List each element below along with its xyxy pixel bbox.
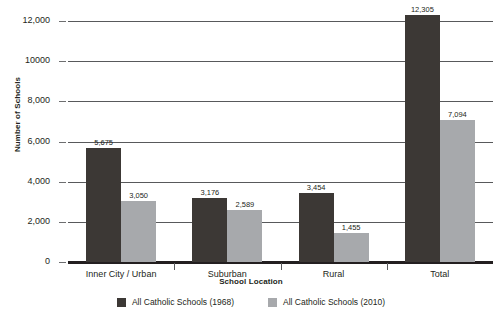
y-axis-tick-label: 8,000 <box>0 95 50 105</box>
bar <box>121 201 156 262</box>
bar-value-label: 3,050 <box>115 191 162 200</box>
legend-item[interactable]: All Catholic Schools (1968) <box>117 297 234 307</box>
bar-value-label: 12,305 <box>399 5 446 14</box>
y-axis-tick-label: 4,000 <box>0 176 50 186</box>
y-axis-tick-label: 0 <box>0 256 50 266</box>
plot-area: 02,0004,0006,0008,0001000012,0005,6753,0… <box>68 21 493 262</box>
y-axis-tick-label: 2,000 <box>0 216 50 226</box>
bar-value-label: 3,454 <box>293 183 340 192</box>
y-axis-title: Number of Schools <box>13 65 22 165</box>
bar <box>334 233 369 262</box>
bar-value-label: 7,094 <box>434 110 481 119</box>
bar-value-label: 1,455 <box>328 223 375 232</box>
x-axis-title: School Location <box>0 277 502 286</box>
legend-swatch-icon <box>117 298 126 307</box>
y-axis-tick <box>59 262 66 263</box>
y-axis-tick <box>59 21 66 22</box>
legend-label: All Catholic Schools (1968) <box>132 297 234 307</box>
y-axis-tick <box>59 61 66 62</box>
y-axis-tick-label: 10000 <box>0 55 50 65</box>
y-axis-tick <box>59 182 66 183</box>
legend-item[interactable]: All Catholic Schools (2010) <box>268 297 385 307</box>
legend-swatch-icon <box>268 298 277 307</box>
bar <box>86 148 121 262</box>
bar <box>227 210 262 262</box>
bar <box>440 120 475 262</box>
bar-value-label: 3,176 <box>186 188 233 197</box>
y-axis-tick <box>59 142 66 143</box>
chart-legend: All Catholic Schools (1968)All Catholic … <box>0 297 502 307</box>
y-axis-tick <box>59 101 66 102</box>
bar-chart: Number of Schools 02,0004,0006,0008,0001… <box>0 0 502 319</box>
bar-value-label: 5,675 <box>80 138 127 147</box>
y-axis-tick-label: 12,000 <box>0 15 50 25</box>
bar-value-label: 2,589 <box>221 200 268 209</box>
y-axis-tick <box>59 222 66 223</box>
legend-label: All Catholic Schools (2010) <box>283 297 385 307</box>
bar <box>405 15 440 262</box>
y-axis-tick-label: 6,000 <box>0 136 50 146</box>
